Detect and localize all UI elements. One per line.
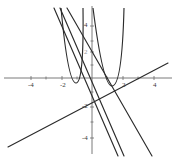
y-tick-label-pos2: 2: [84, 49, 88, 56]
plot-canvas: [0, 0, 176, 158]
curve-wide-parabola: [93, 8, 124, 86]
x-tick-label-neg4: -4: [28, 82, 34, 89]
x-tick-label-neg2: -2: [60, 82, 66, 89]
graph-figure: -4 -2 2 4 4 2 -2 -4: [0, 0, 176, 158]
y-tick-label-neg2: -2: [82, 103, 88, 110]
y-tick-label-pos4: 4: [84, 22, 88, 29]
curve-steep-line-3: [67, 8, 152, 156]
y-tick-label-neg4: -4: [82, 135, 88, 142]
curve-shallow-line: [8, 63, 168, 147]
x-tick-label-pos4: 4: [153, 82, 157, 89]
x-tick-label-pos2: 2: [122, 82, 126, 89]
